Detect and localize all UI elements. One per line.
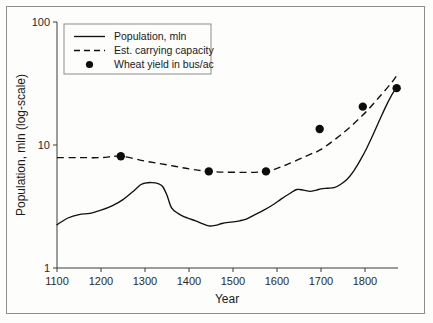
legend-label-carrying-capacity: Est. carrying capacity bbox=[114, 44, 215, 56]
data-point-marker bbox=[392, 84, 400, 92]
data-point-marker bbox=[117, 152, 125, 160]
x-tick-label: 1600 bbox=[265, 275, 289, 287]
series-population bbox=[57, 86, 398, 226]
x-tick-label: 1300 bbox=[133, 275, 157, 287]
chart-legend: Population, mln Est. carrying capacity W… bbox=[64, 24, 215, 74]
data-point-marker bbox=[262, 167, 270, 175]
x-axis-title: Year bbox=[215, 292, 239, 306]
legend-label-wheat-yield: Wheat yield in bus/ac bbox=[114, 58, 214, 70]
chart-plot-area: 110100 11001200130014001500160017001800 … bbox=[0, 0, 433, 323]
x-axis-ticks: 11001200130014001500160017001800 bbox=[45, 268, 377, 287]
y-tick-label: 10 bbox=[38, 139, 50, 151]
x-tick-label: 1500 bbox=[221, 275, 245, 287]
series-wheat-yield-markers bbox=[117, 84, 401, 176]
x-tick-label: 1700 bbox=[309, 275, 333, 287]
x-tick-label: 1400 bbox=[177, 275, 201, 287]
data-point-marker bbox=[205, 167, 213, 175]
y-tick-label: 100 bbox=[32, 16, 50, 28]
data-series-group bbox=[57, 74, 401, 226]
data-point-marker bbox=[359, 102, 367, 110]
legend-swatch-wheat-yield bbox=[86, 61, 93, 68]
legend-label-population: Population, mln bbox=[114, 30, 187, 42]
x-tick-label: 1800 bbox=[353, 275, 377, 287]
data-point-marker bbox=[315, 125, 323, 133]
x-tick-label: 1100 bbox=[45, 275, 69, 287]
series-est-carrying-capacity bbox=[57, 74, 398, 173]
y-axis-title: Population, mln (log-scale) bbox=[14, 74, 28, 216]
y-tick-label: 1 bbox=[44, 262, 50, 274]
figure-container: 110100 11001200130014001500160017001800 … bbox=[0, 0, 433, 323]
y-axis-ticks: 110100 bbox=[32, 16, 57, 274]
x-tick-label: 1200 bbox=[89, 275, 113, 287]
